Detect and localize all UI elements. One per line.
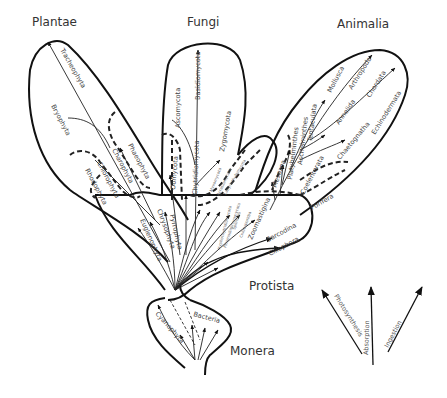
phylum-bryophyta: Bryophyta: [49, 103, 72, 137]
mode-ingestion: Ingestion: [383, 319, 404, 349]
phylum-arthropoda: Arthropoda: [347, 55, 373, 91]
monera-outline: [147, 285, 231, 375]
kingdom-label-fungi: Fungi: [187, 15, 219, 29]
phylum-chordata: Chordata: [365, 69, 388, 99]
five-kingdom-diagram: Plantae Fungi Animalia Protista Monera: [0, 0, 447, 398]
phylum-ascomycota: Ascomycota: [174, 88, 182, 128]
phylum-mesozoa: Mesozoa: [270, 159, 287, 189]
phylum-chytridiomycota: Chytridiomycota: [191, 140, 201, 195]
kingdom-label-plantae: Plantae: [32, 15, 77, 29]
phylum-oomycota: Oomycota: [169, 156, 180, 190]
kingdom-label-protista: Protista: [249, 279, 294, 293]
kingdom-label-animalia: Animalia: [337, 17, 389, 31]
plantae-branches: [48, 42, 170, 262]
phylum-chaetognatha: Chaetognatha: [335, 120, 371, 161]
kingdom-label-monera: Monera: [230, 344, 275, 358]
phylum-cyanophyta: Cyanophyta: [154, 310, 186, 345]
phylum-basidiomycota: Basidiomycota: [194, 52, 202, 101]
mode-absorption: Absorption: [362, 320, 371, 355]
phylum-porifera: Porifera: [309, 192, 335, 212]
phylum-zygomycota: Zygomycota: [218, 110, 233, 152]
phylum-annelida: Annelida: [334, 98, 357, 126]
nutrition-mode-legend: Photosynthesis Absorption Ingestion: [322, 287, 422, 365]
phylum-mollusca: Mollusca: [326, 65, 347, 94]
